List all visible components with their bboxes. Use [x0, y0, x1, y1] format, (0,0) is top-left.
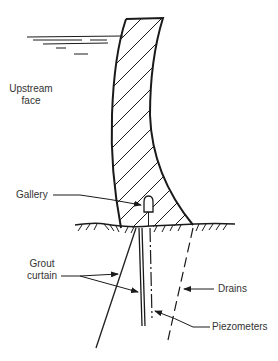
dam-diagram: Upstream face Gallery Grout curtain Drai… [0, 0, 278, 361]
dam-hatching [100, 0, 270, 250]
gallery-label: Gallery [16, 189, 48, 201]
gallery-shape [144, 196, 153, 226]
reservoir-water-lines [27, 36, 123, 54]
drain-line [168, 228, 193, 340]
piezometer-line [150, 228, 152, 318]
upstream-face-label-line1: Upstream [8, 83, 54, 95]
upstream-face-label: Upstream face [8, 83, 54, 107]
upstream-face-label-line2: face [8, 95, 54, 107]
grout-curtain-lines [96, 228, 145, 348]
drains-label: Drains [218, 283, 247, 295]
grout-curtain-label-line2: curtain [22, 270, 62, 282]
dam-cross-section-graphic [0, 0, 278, 361]
grout-curtain-label: Grout curtain [22, 258, 62, 282]
grout-curtain-label-line1: Grout [22, 258, 62, 270]
piezometers-label: Piezometers [212, 321, 268, 333]
leader-lines [53, 195, 214, 327]
